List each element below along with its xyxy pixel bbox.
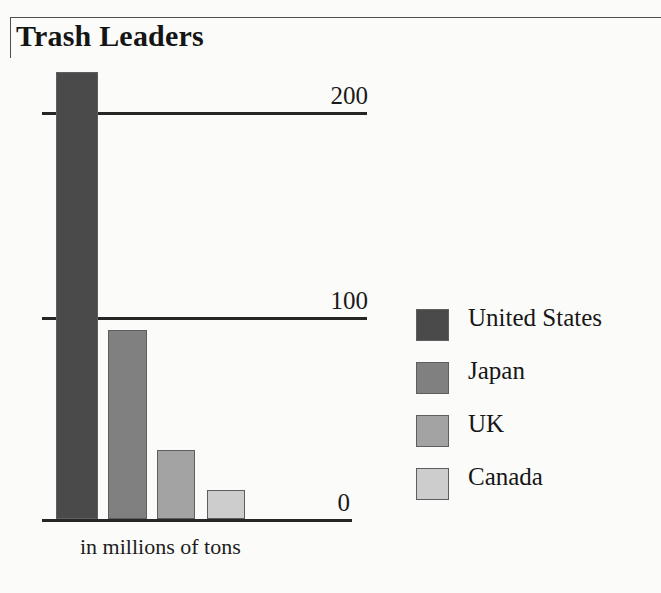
legend-label-canada: Canada xyxy=(468,463,543,491)
bar-japan xyxy=(108,330,147,519)
ytick-label-200: 200 xyxy=(268,82,368,110)
axis-baseline-0 xyxy=(42,519,352,522)
legend-swatch-canada xyxy=(416,468,449,500)
legend-label-united-states: United States xyxy=(468,304,602,332)
ytick-label-0: 0 xyxy=(250,489,350,517)
bar-canada xyxy=(207,490,245,519)
legend-swatch-united-states xyxy=(416,309,449,341)
legend-swatch-japan xyxy=(416,362,449,394)
x-axis-caption: in millions of tons xyxy=(80,534,241,560)
chart-figure: Trash Leaders 200 100 0 in millions of t… xyxy=(0,0,661,593)
legend-swatch-uk xyxy=(416,415,449,447)
bar-uk xyxy=(157,450,195,519)
ytick-label-100: 100 xyxy=(268,287,368,315)
bar-united-states xyxy=(56,72,98,519)
plot-area: 200 100 0 in millions of tons xyxy=(0,0,661,593)
legend-label-japan: Japan xyxy=(468,357,525,385)
legend-label-uk: UK xyxy=(468,410,504,438)
